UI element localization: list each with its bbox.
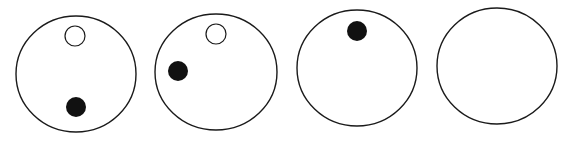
circle-sequence-diagram — [0, 0, 564, 146]
outer-circle — [437, 8, 557, 124]
panel-4 — [437, 8, 557, 124]
filled-dot — [168, 61, 188, 81]
panel-1 — [16, 16, 136, 132]
open-dot — [65, 26, 85, 46]
open-dot — [206, 24, 226, 44]
filled-dot — [66, 97, 86, 117]
filled-dot — [347, 21, 367, 41]
panel-3 — [297, 10, 417, 126]
panel-2 — [155, 14, 277, 130]
